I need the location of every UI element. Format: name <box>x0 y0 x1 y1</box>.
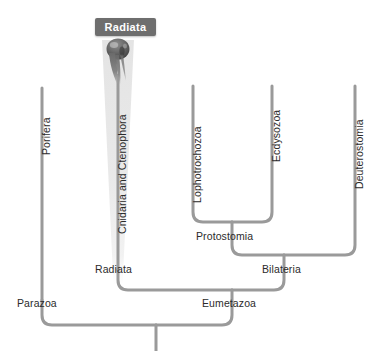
node-label-bilateria: Bilateria <box>262 263 301 275</box>
stem-parazoa <box>42 300 156 325</box>
node-label-radiata: Radiata <box>95 263 132 275</box>
taxon-label-cnidaria: Cnidaria and Ctenophora <box>116 114 128 234</box>
node-label-eumetazoa: Eumetazoa <box>202 297 256 309</box>
taxon-label-porifera: Porifera <box>40 117 52 155</box>
taxon-label-deuterostomia: Deuterostomia <box>353 119 365 189</box>
node-label-parazoa: Parazoa <box>17 297 57 309</box>
radiata-callout-box: Radiata <box>95 18 156 36</box>
stem-radiata <box>118 270 232 290</box>
node-label-protostomia: Protostomia <box>196 230 253 242</box>
branch-ecdysozoa <box>232 86 272 222</box>
radiata-callout-label: Radiata <box>105 21 147 33</box>
phylogenetic-tree-diagram: Radiata Porifera Cnidaria and Ctenophora… <box>0 0 381 351</box>
branch-deuterostomia <box>284 86 355 255</box>
taxon-label-lophotrochozoa: Lophotrochozoa <box>191 126 203 203</box>
taxon-label-ecdysozoa: Ecdysozoa <box>270 110 282 162</box>
